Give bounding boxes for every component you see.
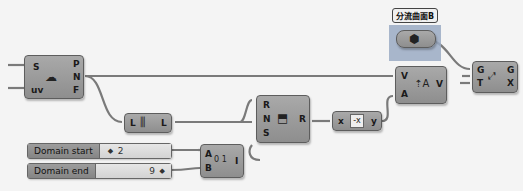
- input-uv: uv: [31, 85, 43, 95]
- slider-track[interactable]: 9 ◆: [96, 164, 171, 178]
- output-x: X: [507, 78, 514, 88]
- rotate-icon: ⬒: [277, 111, 288, 125]
- slider-value: 9: [149, 164, 155, 178]
- vector-amplitude-node[interactable]: V A ⇡A V: [395, 66, 447, 104]
- expression-icon: -x: [350, 114, 364, 128]
- slider-label: Domain end: [28, 164, 96, 178]
- output-g: G: [507, 65, 514, 75]
- surface-param-node[interactable]: ⬢: [396, 30, 436, 48]
- slider-track[interactable]: ◆ 2: [100, 144, 171, 158]
- evaluate-surface-node[interactable]: S uv P N F ☁: [24, 55, 84, 99]
- input-a: A: [401, 89, 408, 99]
- input-r: R: [263, 100, 270, 110]
- input-s: S: [33, 62, 39, 72]
- list-length-node[interactable]: L L ⫼: [124, 113, 172, 133]
- output-p: P: [73, 59, 80, 69]
- input-l: L: [130, 118, 136, 128]
- slider-label: Domain start: [28, 144, 100, 158]
- surface-point-icon: ☁: [45, 70, 57, 84]
- expression-node[interactable]: x -x y: [332, 111, 382, 131]
- slider-handle[interactable]: ◆: [160, 164, 165, 178]
- move-node[interactable]: G T ⤢ G X: [472, 61, 518, 93]
- range-icon: 0 1: [214, 153, 227, 167]
- input-n: N: [263, 114, 271, 124]
- rotate-vector-node[interactable]: R N S R ⬒: [256, 95, 310, 143]
- slider-domain-start[interactable]: Domain start ◆ 2: [27, 143, 172, 159]
- input-s: S: [263, 128, 269, 138]
- input-a: A: [205, 149, 212, 159]
- output-n: N: [73, 72, 81, 82]
- output-r: R: [299, 114, 306, 124]
- slider-domain-end[interactable]: Domain end 9 ◆: [27, 163, 172, 179]
- input-t: T: [477, 78, 483, 88]
- input-g: G: [477, 65, 484, 75]
- input-b: B: [205, 163, 212, 173]
- surface-param-icon: ⬢: [409, 32, 419, 46]
- output-f: F: [73, 85, 79, 95]
- list-length-icon: ⫼: [140, 115, 146, 129]
- input-v: V: [401, 71, 408, 81]
- output-y: y: [371, 116, 377, 126]
- output-v: V: [436, 79, 443, 89]
- move-icon: ⤢: [488, 69, 496, 83]
- surface-tag: 分流曲面B: [392, 8, 438, 23]
- range-node[interactable]: A B 0 1 I: [200, 144, 244, 178]
- output-l: L: [161, 118, 167, 128]
- slider-handle[interactable]: ◆: [108, 144, 113, 158]
- output-i: I: [235, 156, 238, 166]
- input-x: x: [338, 116, 344, 126]
- amplitude-icon: ⇡A: [414, 77, 429, 91]
- slider-value: 2: [118, 144, 124, 158]
